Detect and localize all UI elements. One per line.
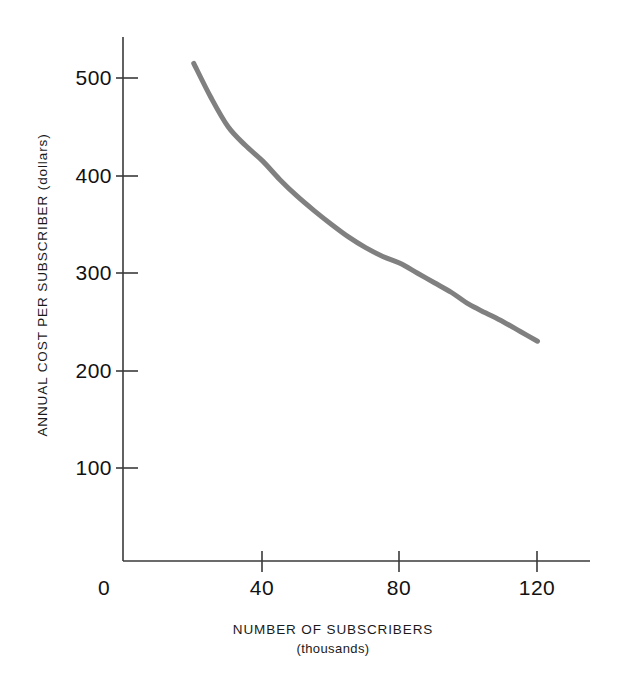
chart-figure: ANNUAL COST PER SUBSCRIBER (dollars) 500… [0, 0, 630, 682]
y-axis-ticks [116, 78, 138, 468]
cost-curve [194, 63, 538, 341]
plot-area [0, 0, 630, 682]
